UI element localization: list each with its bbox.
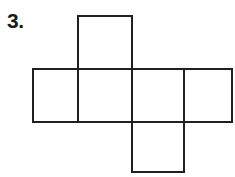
net-faces-group <box>33 16 232 172</box>
bottom-face <box>132 122 184 172</box>
cube-net-diagram <box>0 0 235 177</box>
figure-container: 3. <box>0 0 235 177</box>
middle-center-right-face <box>132 69 184 122</box>
middle-right-face <box>184 69 232 122</box>
middle-left-face <box>33 69 78 122</box>
middle-center-left-face <box>78 69 132 122</box>
top-face <box>78 16 132 69</box>
